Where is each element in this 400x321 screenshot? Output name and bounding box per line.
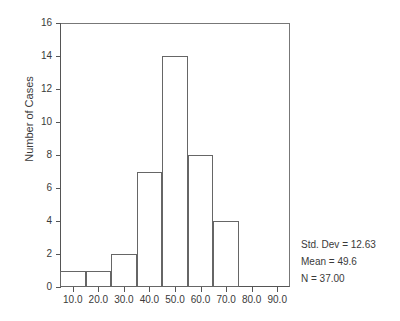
y-axis-tick-label: 6	[46, 183, 52, 193]
x-axis-tick	[277, 287, 278, 292]
y-axis-tick	[56, 122, 61, 123]
y-axis-tick-label: 8	[46, 150, 52, 160]
y-axis-tick	[56, 221, 61, 222]
x-axis-tick	[98, 287, 99, 292]
x-axis-tick	[201, 287, 202, 292]
y-axis-tick-label: 14	[41, 51, 52, 61]
stat-n: N = 37.00	[301, 270, 376, 287]
stat-mean: Mean = 49.6	[301, 253, 376, 270]
y-axis-tick-label: 4	[46, 216, 52, 226]
histogram-chart: 0246810121416 Number of Cases 10.020.030…	[0, 0, 400, 321]
x-axis-tick	[73, 287, 74, 292]
y-axis-tick	[56, 56, 61, 57]
histogram-bar	[162, 56, 188, 287]
stat-std-dev: Std. Dev = 12.63	[301, 236, 376, 253]
histogram-bar	[60, 271, 86, 288]
y-axis-tick	[56, 254, 61, 255]
bars-layer	[60, 23, 290, 287]
y-axis-tick	[56, 89, 61, 90]
x-axis-tick-label: 90.0	[257, 294, 297, 305]
y-axis-tick-label: 2	[46, 249, 52, 259]
histogram-bar	[86, 271, 112, 288]
y-axis-title: Number of Cases	[23, 44, 35, 194]
histogram-bar	[213, 221, 239, 287]
x-axis-tick	[149, 287, 150, 292]
y-axis-tick	[56, 23, 61, 24]
y-axis-tick	[56, 155, 61, 156]
y-axis-tick-label: 0	[46, 282, 52, 292]
y-axis-tick-label: 16	[41, 18, 52, 28]
statistics-annotation: Std. Dev = 12.63 Mean = 49.6 N = 37.00	[301, 236, 376, 287]
x-axis-tick	[175, 287, 176, 292]
histogram-bar	[111, 254, 137, 287]
histogram-bar	[137, 172, 163, 288]
y-axis-tick-label: 12	[41, 84, 52, 94]
y-axis-tick-label: 10	[41, 117, 52, 127]
x-axis-tick	[124, 287, 125, 292]
y-axis-tick	[56, 188, 61, 189]
histogram-bar	[188, 155, 214, 287]
x-axis-tick	[252, 287, 253, 292]
y-axis-tick	[56, 287, 61, 288]
x-axis-tick	[226, 287, 227, 292]
